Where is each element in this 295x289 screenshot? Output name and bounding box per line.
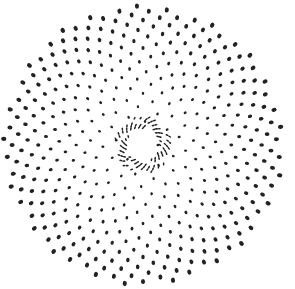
spiral-figure: Phyllotaxis dot spiral pattern — [0, 0, 295, 289]
dot-spiral-canvas — [0, 0, 295, 289]
